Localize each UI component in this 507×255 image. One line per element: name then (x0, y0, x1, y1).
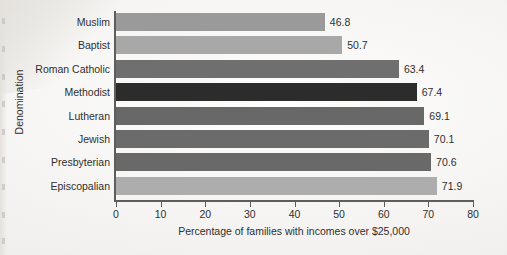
y-axis-category-label: Baptist (2, 39, 110, 51)
bar-value-label: 67.4 (422, 86, 442, 98)
bar-value-label: 70.6 (436, 156, 456, 168)
bar-value-label: 70.1 (434, 133, 454, 145)
bar-value-label: 71.9 (442, 180, 462, 192)
x-axis-tick-label: 60 (378, 208, 390, 220)
x-axis-tick (384, 202, 385, 207)
bar (116, 130, 429, 148)
x-axis-title: Percentage of families with incomes over… (114, 225, 474, 237)
bar-value-label: 50.7 (347, 39, 367, 51)
bar-value-label: 69.1 (429, 110, 449, 122)
bar (116, 107, 424, 125)
x-axis-tick-label: 0 (113, 208, 119, 220)
x-axis-tick-label: 30 (244, 208, 256, 220)
bar (116, 13, 325, 31)
bar-value-label: 63.4 (404, 63, 424, 75)
x-axis-tick (205, 202, 206, 207)
x-axis-tick-label: 80 (467, 208, 479, 220)
bar (116, 177, 437, 195)
bar (116, 83, 417, 101)
y-axis-category: Muslim (0, 13, 110, 31)
y-axis-category: Episcopalian (0, 177, 110, 195)
x-axis-tick (250, 202, 251, 207)
x-axis-tick (295, 202, 296, 207)
x-axis-tick (116, 202, 117, 207)
bar (116, 60, 399, 78)
x-axis-tick-label: 10 (155, 208, 167, 220)
x-axis-tick (339, 202, 340, 207)
x-axis-tick-label: 50 (333, 208, 345, 220)
y-axis-category-label: Episcopalian (2, 180, 110, 192)
x-axis-tick (428, 202, 429, 207)
y-axis-category: Baptist (0, 36, 110, 54)
y-axis-category-label: Presbyterian (2, 156, 110, 168)
y-axis-category: Presbyterian (0, 153, 110, 171)
chart-page: 0102030405060708046.8Muslim50.7Baptist63… (0, 0, 507, 255)
x-axis-tick (161, 202, 162, 207)
x-axis-tick-label: 70 (423, 208, 435, 220)
bar-chart-plot-area: 0102030405060708046.8Muslim50.7Baptist63… (0, 0, 507, 255)
bar (116, 153, 431, 171)
bar (116, 36, 342, 54)
x-axis-tick (473, 202, 474, 207)
bar-value-label: 46.8 (330, 16, 350, 28)
x-axis-tick-label: 20 (199, 208, 211, 220)
y-axis-title: Denomination (13, 57, 25, 147)
y-axis-category-label: Muslim (2, 16, 110, 28)
x-axis-tick-label: 40 (289, 208, 301, 220)
